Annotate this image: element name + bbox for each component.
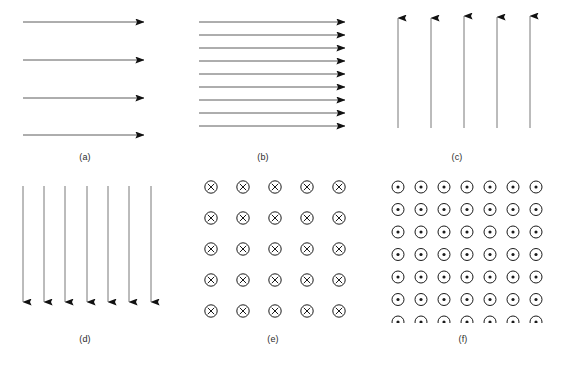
field-into-page-symbol bbox=[205, 274, 217, 286]
field-into-page-symbol bbox=[301, 305, 313, 317]
field-out-of-page-symbol bbox=[392, 271, 404, 283]
arrow-group bbox=[398, 16, 530, 128]
field-out-of-page-symbol bbox=[484, 316, 496, 323]
panel-a bbox=[0, 0, 180, 145]
field-out-of-page-symbol bbox=[438, 271, 450, 283]
field-out-of-page-symbol bbox=[415, 316, 427, 323]
field-out-of-page-symbol bbox=[461, 204, 473, 216]
field-out-of-page-symbol bbox=[461, 226, 473, 238]
field-out-of-page-symbol bbox=[507, 204, 519, 216]
field-out-of-page-symbol bbox=[461, 316, 473, 323]
field-into-page-symbol bbox=[237, 181, 249, 193]
field-out-of-page-symbol bbox=[530, 181, 542, 193]
field-out-of-page-symbol bbox=[415, 294, 427, 306]
field-into-page-symbol bbox=[269, 305, 281, 317]
field-into-page-symbol bbox=[205, 305, 217, 317]
field-out-of-page-symbol bbox=[392, 294, 404, 306]
circled-dot-grid bbox=[392, 181, 542, 323]
field-out-of-page-symbol bbox=[484, 294, 496, 306]
field-into-page-symbol bbox=[301, 274, 313, 286]
panel-label-d: (d) bbox=[65, 334, 105, 345]
field-into-page-symbol bbox=[333, 212, 345, 224]
field-out-of-page-symbol bbox=[484, 249, 496, 261]
panel-b-graphic bbox=[180, 0, 360, 145]
field-out-of-page-symbol bbox=[530, 316, 542, 323]
field-out-of-page-symbol bbox=[392, 204, 404, 216]
field-out-of-page-symbol bbox=[392, 316, 404, 323]
field-out-of-page-symbol bbox=[438, 181, 450, 193]
field-into-page-symbol bbox=[205, 212, 217, 224]
field-out-of-page-symbol bbox=[415, 204, 427, 216]
panel-c-graphic bbox=[360, 0, 561, 145]
field-into-page-symbol bbox=[269, 212, 281, 224]
field-into-page-symbol bbox=[333, 274, 345, 286]
field-into-page-symbol bbox=[301, 212, 313, 224]
panel-d-graphic bbox=[0, 168, 180, 323]
field-out-of-page-symbol bbox=[507, 249, 519, 261]
field-out-of-page-symbol bbox=[507, 181, 519, 193]
field-out-of-page-symbol bbox=[484, 204, 496, 216]
panel-label-e: (e) bbox=[253, 334, 293, 345]
field-into-page-symbol bbox=[269, 243, 281, 255]
field-out-of-page-symbol bbox=[438, 204, 450, 216]
field-out-of-page-symbol bbox=[461, 181, 473, 193]
field-into-page-symbol bbox=[205, 181, 217, 193]
panel-a-graphic bbox=[0, 0, 180, 145]
field-out-of-page-symbol bbox=[530, 271, 542, 283]
field-out-of-page-symbol bbox=[484, 271, 496, 283]
field-out-of-page-symbol bbox=[415, 271, 427, 283]
panel-label-b: (b) bbox=[243, 152, 283, 163]
field-out-of-page-symbol bbox=[507, 294, 519, 306]
field-out-of-page-symbol bbox=[461, 271, 473, 283]
field-out-of-page-symbol bbox=[415, 181, 427, 193]
field-out-of-page-symbol bbox=[438, 294, 450, 306]
field-out-of-page-symbol bbox=[484, 226, 496, 238]
panel-d bbox=[0, 168, 180, 323]
field-into-page-symbol bbox=[301, 243, 313, 255]
panel-f-graphic bbox=[360, 168, 561, 323]
field-out-of-page-symbol bbox=[392, 249, 404, 261]
field-out-of-page-symbol bbox=[438, 226, 450, 238]
field-out-of-page-symbol bbox=[461, 294, 473, 306]
panel-label-a: (a) bbox=[65, 152, 105, 163]
circled-x-grid bbox=[205, 181, 345, 317]
field-into-page-symbol bbox=[269, 181, 281, 193]
field-into-page-symbol bbox=[205, 243, 217, 255]
field-out-of-page-symbol bbox=[392, 181, 404, 193]
field-into-page-symbol bbox=[237, 305, 249, 317]
field-out-of-page-symbol bbox=[530, 204, 542, 216]
arrow-group bbox=[199, 22, 345, 126]
panel-label-f: (f) bbox=[443, 334, 483, 345]
field-into-page-symbol bbox=[301, 181, 313, 193]
arrow-group bbox=[23, 22, 144, 135]
field-out-of-page-symbol bbox=[415, 249, 427, 261]
field-into-page-symbol bbox=[333, 181, 345, 193]
field-into-page-symbol bbox=[237, 212, 249, 224]
field-into-page-symbol bbox=[333, 305, 345, 317]
panel-e bbox=[180, 168, 360, 323]
field-out-of-page-symbol bbox=[530, 249, 542, 261]
field-out-of-page-symbol bbox=[415, 226, 427, 238]
field-out-of-page-symbol bbox=[484, 181, 496, 193]
field-out-of-page-symbol bbox=[507, 271, 519, 283]
field-into-page-symbol bbox=[237, 274, 249, 286]
arrow-group bbox=[23, 186, 151, 302]
field-out-of-page-symbol bbox=[530, 226, 542, 238]
field-out-of-page-symbol bbox=[392, 226, 404, 238]
field-out-of-page-symbol bbox=[461, 249, 473, 261]
panel-f bbox=[360, 168, 561, 323]
field-out-of-page-symbol bbox=[530, 294, 542, 306]
panel-b bbox=[180, 0, 360, 145]
field-out-of-page-symbol bbox=[438, 249, 450, 261]
panel-e-graphic bbox=[180, 168, 360, 323]
field-out-of-page-symbol bbox=[507, 316, 519, 323]
field-into-page-symbol bbox=[237, 243, 249, 255]
panel-c bbox=[360, 0, 561, 145]
panel-label-c: (c) bbox=[437, 152, 477, 163]
field-out-of-page-symbol bbox=[507, 226, 519, 238]
figure-canvas: (a) (b) bbox=[0, 0, 561, 370]
field-into-page-symbol bbox=[333, 243, 345, 255]
field-out-of-page-symbol bbox=[438, 316, 450, 323]
field-into-page-symbol bbox=[269, 274, 281, 286]
